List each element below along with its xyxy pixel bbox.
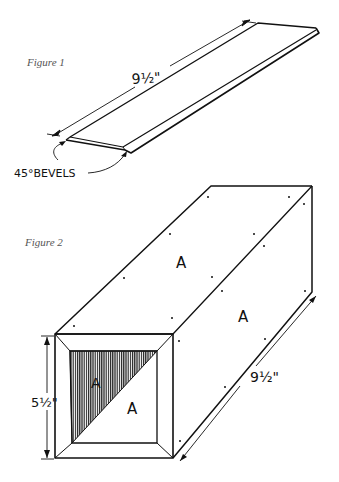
figure-2-nail-holes	[73, 196, 306, 442]
figure-2-length-label: 9½"	[250, 369, 279, 385]
figure-1-length-label: 9½"	[131, 69, 161, 87]
figure-2-hatched-label: A	[91, 375, 101, 391]
figure-2-inner-label: A	[127, 400, 138, 418]
diagram-canvas: 9½" 45°BEVELS A A A A	[0, 0, 339, 482]
figure-1-board	[66, 23, 319, 153]
figure-2-side-label: A	[238, 308, 249, 326]
figure-1-bevels-label: 45°BEVELS	[14, 167, 76, 180]
figure-2-height-label: 5½"	[31, 395, 58, 410]
figure-2-top-label: A	[176, 254, 187, 272]
figure-2-hatched-panel	[70, 351, 157, 443]
